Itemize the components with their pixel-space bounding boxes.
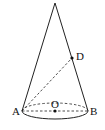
label-O: O [51,98,59,110]
point-D [70,56,73,59]
edge-apex-A [22,3,55,111]
label-A: A [12,105,20,117]
cone-diagram: A B O D [0,0,105,130]
label-D: D [76,50,84,62]
label-B: B [90,105,97,117]
